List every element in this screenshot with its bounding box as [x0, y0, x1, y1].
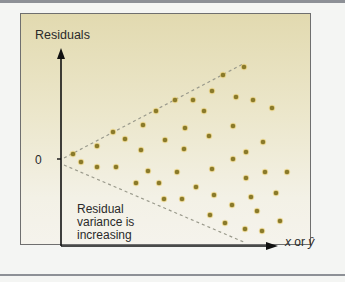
- residual-point: [183, 126, 188, 131]
- residual-point: [244, 150, 249, 155]
- variance-annotation: Residual variance is increasing: [77, 203, 147, 242]
- residual-point: [210, 167, 215, 172]
- residual-point: [162, 197, 167, 202]
- residual-point: [243, 227, 248, 232]
- bottom-divider: [0, 274, 345, 276]
- residual-point: [270, 106, 275, 111]
- y-axis-label: Residuals: [35, 28, 90, 42]
- zero-tick-label: 0: [35, 153, 42, 167]
- residual-point: [180, 197, 185, 202]
- residual-point: [202, 109, 207, 114]
- residual-point: [231, 157, 236, 162]
- residual-point: [274, 191, 279, 196]
- residual-point: [255, 209, 260, 214]
- x-axis-label-x: x: [285, 235, 291, 249]
- residual-point: [260, 229, 265, 234]
- residual-point: [221, 73, 226, 78]
- x-axis-arrow-icon: [266, 242, 278, 250]
- residual-point: [79, 160, 84, 165]
- residual-point: [249, 195, 254, 200]
- residual-point: [242, 65, 247, 70]
- residual-point: [234, 95, 239, 100]
- residual-point: [212, 193, 217, 198]
- residual-point: [223, 221, 228, 226]
- residual-point: [210, 89, 215, 94]
- y-axis-arrow-icon: [57, 48, 65, 59]
- residual-point: [141, 123, 146, 128]
- annotation-line: increasing: [77, 229, 147, 242]
- residual-point: [134, 181, 139, 186]
- residual-point: [285, 170, 290, 175]
- residual-point: [194, 185, 199, 190]
- residual-point: [263, 170, 268, 175]
- residual-point: [207, 134, 212, 139]
- residual-point: [182, 147, 187, 152]
- residual-point: [163, 138, 168, 143]
- residual-point: [95, 165, 100, 170]
- residual-point: [231, 124, 236, 129]
- residual-point: [123, 137, 128, 142]
- residual-point: [175, 170, 180, 175]
- residual-point: [261, 140, 266, 145]
- x-axis-label-yhat: ŷ: [308, 235, 314, 249]
- residual-point: [251, 98, 256, 103]
- residual-point: [191, 98, 196, 103]
- residual-point: [244, 176, 249, 181]
- residual-point: [208, 213, 213, 218]
- residual-point: [157, 181, 162, 186]
- x-axis-label-or: or: [294, 235, 305, 249]
- x-axis-label: x or ŷ: [285, 235, 314, 249]
- residual-point: [278, 219, 283, 224]
- residual-point: [146, 169, 151, 174]
- residual-point: [95, 144, 100, 149]
- residual-point: [173, 98, 178, 103]
- residual-point: [111, 130, 116, 135]
- residual-point: [139, 148, 144, 153]
- residual-point: [71, 152, 76, 157]
- residual-point: [154, 109, 159, 114]
- residual-point: [230, 203, 235, 208]
- residual-point: [114, 165, 119, 170]
